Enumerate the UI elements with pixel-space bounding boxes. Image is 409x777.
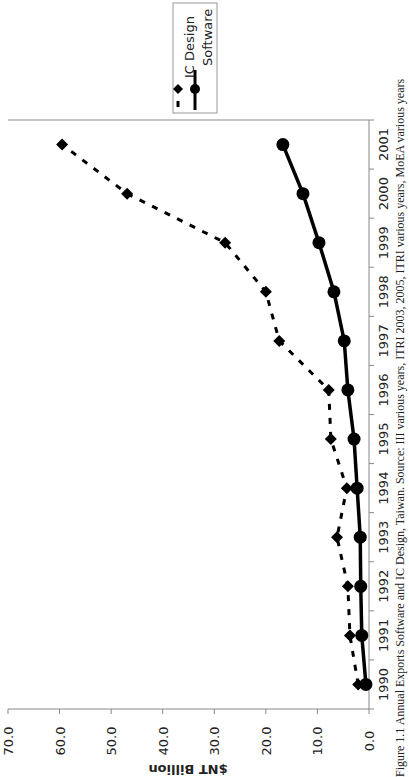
category-tick-label: 1999 bbox=[376, 226, 391, 259]
data-point-circle-icon bbox=[354, 531, 367, 544]
value-tick-label: 30.0 bbox=[207, 727, 222, 756]
value-tick-label: 0.0 bbox=[362, 731, 377, 752]
data-point-diamond-icon bbox=[260, 286, 272, 298]
category-tick-label: 1996 bbox=[376, 373, 391, 406]
series-line-software bbox=[283, 145, 366, 685]
data-point-circle-icon bbox=[338, 334, 351, 347]
data-point-circle-icon bbox=[341, 383, 354, 396]
value-tick-label: 10.0 bbox=[310, 727, 325, 756]
data-point-circle-icon bbox=[296, 187, 309, 200]
value-tick-label: 60.0 bbox=[53, 727, 68, 756]
data-point-diamond-icon bbox=[344, 629, 356, 641]
data-point-diamond-icon bbox=[273, 335, 285, 347]
category-tick-label: 1992 bbox=[376, 570, 391, 603]
data-point-circle-icon bbox=[354, 580, 367, 593]
category-tick-label: 1998 bbox=[376, 275, 391, 308]
data-point-diamond-icon bbox=[331, 531, 343, 543]
data-point-diamond-icon bbox=[342, 580, 354, 592]
value-tick-label: 20.0 bbox=[259, 727, 274, 756]
data-point-circle-icon bbox=[359, 678, 372, 691]
data-point-circle-icon bbox=[276, 138, 289, 151]
category-tick-label: 1994 bbox=[376, 472, 391, 505]
data-point-diamond-icon bbox=[325, 433, 337, 445]
data-point-diamond-icon bbox=[56, 139, 68, 151]
figure-caption: Figure 1.1 Annual Exports Software and I… bbox=[393, 79, 407, 777]
category-tick-label: 1990 bbox=[376, 668, 391, 701]
data-point-circle-icon bbox=[312, 236, 325, 249]
rotated-line-chart: 0.010.020.030.040.050.060.070.0$NT Billi… bbox=[0, 0, 409, 777]
chart-figure: 0.010.020.030.040.050.060.070.0$NT Billi… bbox=[0, 0, 409, 777]
category-tick-label: 2000 bbox=[376, 177, 391, 210]
legend: IC DesignSoftware bbox=[173, 3, 217, 113]
category-tick-label: 1997 bbox=[376, 324, 391, 357]
value-tick-label: 70.0 bbox=[1, 727, 16, 756]
category-tick-label: 1993 bbox=[376, 521, 391, 554]
legend-label-ic-design: IC Design bbox=[182, 16, 197, 78]
value-tick-label: 50.0 bbox=[104, 727, 119, 756]
data-point-diamond-icon bbox=[121, 188, 133, 200]
value-axis-title: $NT Billion bbox=[148, 762, 227, 777]
legend-label-software: Software bbox=[200, 9, 215, 66]
category-tick-label: 1991 bbox=[376, 619, 391, 652]
data-point-diamond-icon bbox=[323, 384, 335, 396]
value-tick-label: 40.0 bbox=[156, 727, 171, 756]
data-point-circle-icon bbox=[351, 482, 364, 495]
data-point-circle-icon bbox=[355, 629, 368, 642]
legend-circle-icon bbox=[190, 84, 200, 94]
data-point-circle-icon bbox=[327, 285, 340, 298]
category-tick-label: 1995 bbox=[376, 422, 391, 455]
data-point-circle-icon bbox=[348, 433, 361, 446]
category-tick-label: 2001 bbox=[376, 128, 391, 161]
